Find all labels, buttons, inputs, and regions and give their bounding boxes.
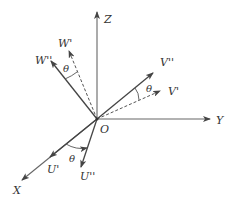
y-axis-label: Y <box>216 114 225 127</box>
v-prime-label: V' <box>168 85 179 98</box>
w-prime-label: W' <box>58 37 72 50</box>
u-double-prime-label: U'' <box>80 170 95 183</box>
theta-v-label: θ <box>146 83 152 94</box>
coordinate-rotation-diagram: Z Y X O W' W'' θ V'' V' θ U' U'' θ <box>0 0 238 205</box>
v-double-prime-label: V'' <box>160 56 174 69</box>
theta-u-label: θ <box>69 153 75 164</box>
x-axis-label: X <box>12 184 22 197</box>
w-prime-vector <box>69 51 97 119</box>
z-axis-label: Z <box>103 13 112 26</box>
u-prime-label: U' <box>47 163 59 176</box>
u-prime-vector <box>50 119 97 157</box>
theta-w-label: θ <box>63 63 69 74</box>
origin-point <box>96 118 99 121</box>
v-prime-vector <box>97 91 160 119</box>
theta-v-arc <box>135 88 139 100</box>
theta-u-arc <box>66 144 87 149</box>
v-double-prime-vector <box>97 73 153 119</box>
origin-label: O <box>100 123 109 136</box>
w-double-prime-vector <box>51 61 97 119</box>
w-double-prime-label: W'' <box>35 54 52 67</box>
